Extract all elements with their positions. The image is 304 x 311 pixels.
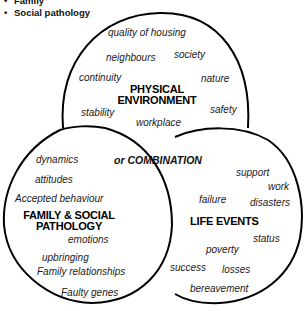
- label-disasters: disasters: [250, 197, 290, 208]
- label-accepted-behaviour: Accepted behaviour: [15, 193, 103, 204]
- label-dynamics: dynamics: [36, 154, 78, 165]
- label-attitudes: attitudes: [35, 174, 73, 185]
- label-poverty: poverty: [206, 244, 239, 255]
- physical-environment-title: PHYSICAL ENVIRONMENT: [112, 84, 202, 106]
- bullet-icon: •: [4, 7, 14, 18]
- life-events-title: LIFE EVENTS: [190, 216, 290, 227]
- label-work: work: [268, 181, 289, 192]
- label-neighbours: neighbours: [106, 52, 155, 63]
- label-upbringing: upbringing: [42, 252, 89, 263]
- label-faulty-genes: Faulty genes: [61, 287, 118, 298]
- label-status: status: [253, 233, 280, 244]
- bullet-icon: •: [4, 0, 14, 6]
- label-quality-of-housing: quality of housing: [108, 27, 186, 38]
- bullet-social-pathology: •Social pathology: [4, 7, 90, 18]
- label-emotions: emotions: [68, 234, 109, 245]
- label-society: society: [174, 49, 205, 60]
- label-stability: stability: [81, 107, 114, 118]
- label-failure: failure: [199, 194, 226, 205]
- label-success: success: [170, 262, 206, 273]
- family-social-pathology-title: FAMILY & SOCIAL PATHOLOGY: [14, 210, 124, 232]
- label-nature: nature: [201, 73, 229, 84]
- label-losses: losses: [222, 264, 250, 275]
- combination-label: or COMBINATION: [114, 154, 202, 166]
- label-workplace: workplace: [136, 117, 181, 128]
- label-continuity: continuity: [79, 72, 121, 83]
- label-bereavement: bereavement: [190, 283, 248, 294]
- label-family-relationships: Family relationships: [37, 266, 125, 277]
- label-support: support: [236, 167, 269, 178]
- bullet-family: •Family: [4, 0, 44, 6]
- label-safety: safety: [210, 104, 237, 115]
